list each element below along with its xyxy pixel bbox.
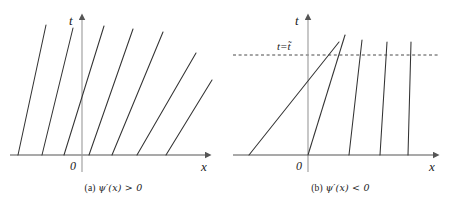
characteristic-line (349, 40, 362, 155)
panel-b-origin-label: 0 (296, 159, 302, 173)
panel-a-origin-label: 0 (70, 159, 76, 173)
characteristic-line (166, 80, 212, 155)
characteristic-line (408, 42, 411, 155)
panel-a-characteristics (18, 25, 212, 155)
panel-b-t-axis-label: t (295, 13, 299, 28)
characteristic-line (64, 26, 104, 155)
panel-b: x t 0 t=t̃ (b) ψ′(x) < 0 (227, 0, 454, 213)
characteristic-line (89, 29, 133, 155)
panel-a-caption-expression: ψ′(x) > 0 (98, 182, 142, 193)
characteristic-line (137, 53, 196, 155)
panel-a-plot: x t 0 (0, 0, 227, 180)
panel-b-characteristics (249, 35, 411, 155)
figure-container: x t 0 (a) ψ′(x) > 0 (0, 0, 454, 213)
panel-a: x t 0 (a) ψ′(x) > 0 (0, 0, 227, 213)
panel-b-caption-expression: ψ′(x) < 0 (326, 182, 370, 193)
panel-b-caption-index: (b) (311, 183, 323, 193)
characteristic-line (42, 28, 73, 155)
characteristic-line (112, 32, 163, 155)
panel-b-plot: x t 0 t=t̃ (227, 0, 454, 180)
characteristic-line (18, 25, 46, 155)
characteristic-line (380, 42, 387, 155)
panel-a-caption-index: (a) (85, 183, 96, 193)
panel-b-caption: (b) ψ′(x) < 0 (227, 182, 454, 193)
breaking-time-label: t=t̃ (277, 40, 292, 52)
panel-b-x-axis-label: x (428, 159, 435, 174)
panel-a-x-axis-label: x (200, 159, 207, 174)
panel-a-caption: (a) ψ′(x) > 0 (0, 182, 227, 193)
characteristic-line (308, 35, 345, 155)
panel-a-t-axis-label: t (69, 13, 73, 28)
